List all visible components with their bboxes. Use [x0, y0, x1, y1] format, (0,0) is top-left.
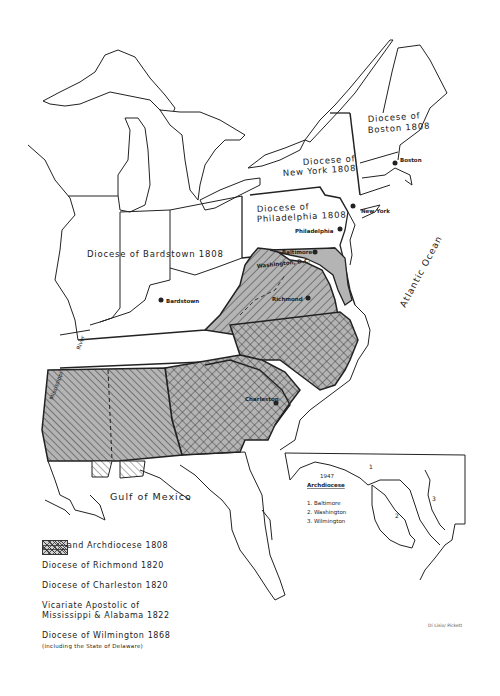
inset-item-3: 3. Wilmington	[307, 518, 346, 525]
label-atlantic-ocean: Atlantic Ocean	[398, 234, 444, 309]
city-bardstown: Bardstown	[166, 298, 199, 304]
legend-item-richmond: Diocese of Richmond 1820	[42, 560, 272, 571]
legend-item-maryland: Maryland Archdiocese 1808	[42, 540, 272, 551]
label-river: River	[75, 334, 86, 350]
legend-label: Vicariate Apostolic ofMississippi & Alab…	[42, 600, 170, 621]
inset-year: 1947	[320, 473, 334, 479]
lake-erie	[200, 178, 260, 210]
city-boston: Boston	[400, 157, 422, 163]
legend-sublabel: (including the State of Delaware)	[42, 641, 170, 651]
city-dot-baltimore	[313, 250, 318, 255]
legend-label-main: Diocese of Wilmington 1868	[42, 631, 170, 640]
inset-region-3: 3	[432, 495, 436, 502]
inset-region-1: 1	[369, 463, 373, 470]
legend-item-charleston: Diocese of Charleston 1820	[42, 580, 272, 591]
label-bardstown: Diocese of Bardstown 1808	[87, 249, 224, 259]
city-charleston: Charleston	[245, 396, 279, 402]
legend: Maryland Archdiocese 1808 Diocese of Ric…	[42, 540, 272, 660]
city-baltimore: Baltimore	[282, 249, 313, 255]
city-dot-richmond	[306, 296, 311, 301]
inset-maryland-1947: 1947 Archdiocese 1. Baltimore 2. Washing…	[285, 453, 465, 580]
legend-label: Diocese of Charleston 1820	[42, 580, 168, 591]
legend-label: Diocese of Richmond 1820	[42, 560, 164, 571]
lake-superior	[43, 50, 175, 115]
city-dot-bardstown	[159, 298, 164, 303]
inset-region-2: 2	[395, 512, 399, 519]
legend-label: Diocese of Wilmington 1868(including the…	[42, 630, 170, 651]
label-gulf-of-mexico: Gulf of Mexico	[110, 491, 192, 502]
legend-item-wilmington: Diocese of Wilmington 1868(including the…	[42, 630, 272, 651]
swatch-horizontal-lines-icon	[42, 540, 68, 555]
region-mississippi-alabama	[42, 368, 182, 461]
great-lakes	[43, 40, 393, 212]
city-newyork: New York	[361, 208, 390, 214]
mississippi-river-line	[28, 145, 78, 340]
city-richmond: Richmond	[272, 296, 303, 302]
legend-item-mississippi-alabama: Vicariate Apostolic ofMississippi & Alab…	[42, 600, 272, 621]
city-dot-philadelphia	[338, 227, 343, 232]
legend-label-line2: Mississippi & Alabama 1822	[42, 611, 170, 620]
map-credit: Di Lisio/ Pickett	[428, 623, 462, 628]
inset-item-2: 2. Washington	[307, 509, 347, 516]
region-sc-georgia	[165, 355, 300, 455]
city-dot-boston	[393, 161, 398, 166]
lake-michigan	[118, 118, 150, 212]
inset-item-1: 1. Baltimore	[307, 500, 341, 506]
inset-title: Archdiocese	[307, 482, 345, 488]
lake-ontario	[248, 140, 305, 168]
city-philadelphia: Philadelphia	[295, 228, 334, 235]
city-dot-newyork	[351, 204, 356, 209]
legend-label-line1: Vicariate Apostolic of	[42, 601, 140, 610]
maine-border	[383, 45, 447, 160]
label-newyork-line2: New York 1808	[282, 163, 356, 178]
